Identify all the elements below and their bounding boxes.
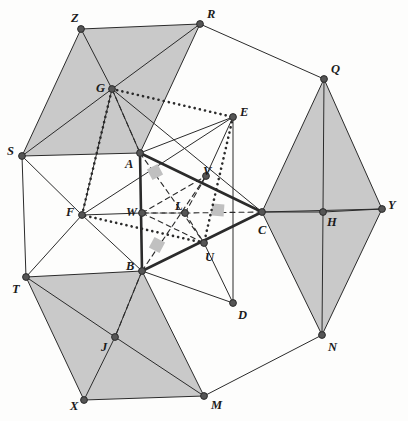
vertex-R [197,21,204,28]
right-angle-at-A-side [147,164,163,180]
region-QHY-right [323,79,382,212]
label-E: E [240,106,249,119]
label-T: T [12,283,20,296]
label-W: W [126,206,137,219]
vertex-S [19,153,26,160]
label-J: J [101,341,107,354]
thin-segment [204,335,322,396]
vertex-C [259,209,266,216]
vertex-M [201,393,208,400]
vertex-T [23,274,30,281]
vertex-B [139,268,146,275]
vertex-E [230,114,237,121]
vertex-G [109,86,116,93]
vertex-A [137,150,144,157]
label-F: F [66,206,75,219]
label-X: X [70,400,79,413]
label-S: S [7,145,14,158]
label-R: R [207,8,216,21]
vertex-U [201,240,208,247]
vertex-W [139,210,146,217]
vertex-H [320,209,327,216]
label-L: L [175,200,183,213]
vertex-J [112,334,119,341]
label-M: M [211,399,222,412]
label-Y: Y [388,199,396,212]
dotted-segment [82,215,204,243]
vertex-F [79,212,86,219]
vertex-Q [321,76,328,83]
vertex-X [81,397,88,404]
geometry-figure: ZRQYNMXTSGABCEDFHJWLUV [0,0,408,421]
label-B: B [126,260,135,273]
vertex-D [230,300,237,307]
label-V: V [203,165,212,178]
thin-segment [26,215,82,277]
vertex-Y [379,206,386,213]
figure-canvas [0,0,408,421]
label-H: H [327,216,337,229]
label-Z: Z [71,12,79,25]
label-D: D [238,309,247,322]
dotted-segment [204,117,233,243]
label-C: C [258,224,267,237]
label-Q: Q [331,63,340,76]
label-A: A [125,158,134,171]
label-N: N [328,341,337,354]
dashed-segment [142,176,206,271]
vertex-N [319,332,326,339]
label-G: G [96,82,105,95]
thin-segment [200,24,324,79]
label-U: U [205,251,214,264]
right-angle-markers-group [147,164,225,253]
dashed-segment [140,153,204,243]
dashed-segment [185,176,206,213]
thin-segment [22,156,26,277]
vertex-Z [78,26,85,33]
